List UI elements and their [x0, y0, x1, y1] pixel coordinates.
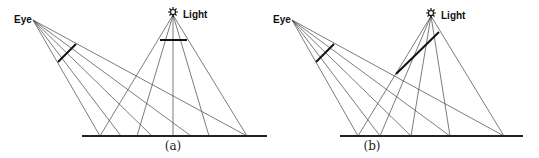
light-ray — [431, 16, 504, 136]
light-ray — [431, 16, 450, 136]
eye-ray — [292, 20, 358, 136]
light-ray — [411, 16, 431, 136]
sun-icon — [168, 7, 178, 17]
ray-diagram-canvas — [0, 0, 539, 158]
sun-icon — [426, 8, 436, 18]
light-ray — [100, 15, 173, 136]
light-ray — [137, 15, 173, 136]
light-ray — [380, 16, 431, 136]
eye-ray — [292, 20, 450, 136]
light-ray — [173, 15, 209, 136]
eye-ray — [33, 20, 100, 136]
caption-a: (a) — [165, 139, 182, 153]
eye-ray — [33, 20, 152, 136]
eye-label-a: Eye — [14, 14, 32, 25]
diagram-root: Eye Light (a) Eye Light (b) — [0, 0, 539, 158]
light-label-b: Light — [441, 10, 465, 21]
caption-b: (b) — [363, 139, 380, 153]
eye-label-b: Eye — [273, 14, 291, 25]
eye-image-plane — [316, 44, 334, 62]
eye-ray — [292, 20, 504, 136]
light-ray — [358, 16, 431, 136]
light-label-a: Light — [183, 9, 207, 20]
eye-ray — [33, 20, 191, 136]
eye-ray — [292, 20, 380, 136]
light-ray — [173, 15, 247, 136]
eye-ray — [33, 20, 247, 136]
eye-ray — [33, 20, 121, 136]
